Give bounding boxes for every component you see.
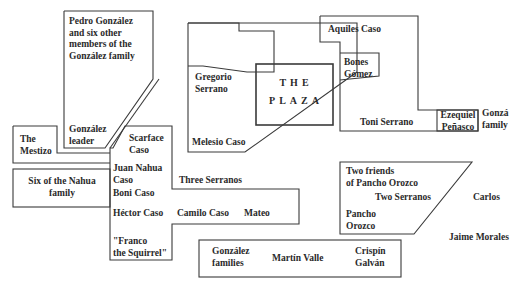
label-ezequiel-penasco: Ezequiel Peñasco: [437, 110, 479, 133]
label-aquiles-caso: Aquiles Caso: [328, 24, 381, 36]
label-mateo: Mateo: [244, 208, 270, 220]
label-the-mestizo: The Mestizo: [20, 134, 52, 157]
label-gonzalez-families: González families: [212, 246, 249, 269]
label-toni-serrano: Toni Serrano: [360, 117, 413, 129]
label-franco-the-squirrel: "Franco the Squirrel": [113, 236, 167, 259]
label-martin-valle: Martín Valle: [272, 253, 323, 265]
label-two-serranos: Two Serranos: [375, 192, 431, 204]
label-crispin-galvan: Crispín Galván: [355, 246, 386, 269]
label-three-serranos: Three Serranos: [179, 175, 242, 187]
label-camilo-caso: Camilo Caso: [177, 208, 229, 220]
label-jaime-morales: Jaime Morales: [449, 232, 509, 244]
label-juan-nahua-caso: Juan Nahua Caso: [113, 163, 162, 186]
label-boni-caso: Boni Caso: [113, 188, 154, 200]
label-gregorio-serrano: Gregorio Serrano: [195, 72, 232, 95]
label-carlos: Carlos: [473, 192, 500, 204]
label-gonzalez-leader: González leader: [69, 124, 106, 147]
label-scarface-caso: Scarface Caso: [129, 133, 164, 156]
label-gonzalez-family-right: Gonzá family: [482, 108, 508, 131]
label-bones-gomez: Bones Gómez: [344, 57, 373, 80]
label-the-plaza: THE PLAZA: [256, 74, 336, 110]
plaza-seating-diagram: Pedro González and six other members of …: [0, 0, 512, 289]
label-hector-caso: Héctor Caso: [113, 208, 163, 220]
label-pancho-orozco: Pancho Orozco: [346, 209, 376, 232]
label-melesio-caso: Melesio Caso: [192, 137, 246, 149]
label-pedro-gonzalez: Pedro González and six other members of …: [69, 16, 135, 62]
label-two-friends-orozco: Two friends of Pancho Orozco: [346, 166, 418, 189]
label-six-nahua: Six of the Nahua family: [22, 176, 102, 199]
